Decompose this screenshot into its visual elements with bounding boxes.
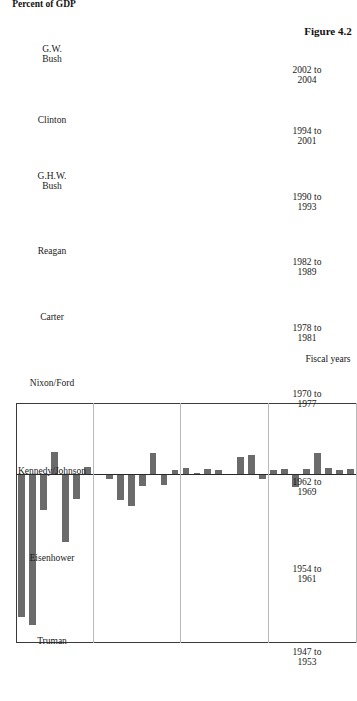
president-label: Clinton — [38, 116, 67, 126]
president-label: Kennedy/Johnson — [18, 467, 86, 477]
bar — [18, 475, 25, 617]
fiscal-year-range-label: 1947 to1953 — [293, 647, 322, 668]
fiscal-year-range-line: 1947 to — [293, 647, 322, 657]
fiscal-year-range-line: 1978 to — [293, 323, 322, 333]
fiscal-year-range-line: 2002 to — [293, 65, 322, 75]
fiscal-year-range-label: 1990 to1993 — [293, 192, 322, 213]
president-label-line: Kennedy/Johnson — [18, 467, 86, 477]
fiscal-year-range-line: 2001 — [293, 136, 322, 146]
fiscal-year-range-line: 1970 to — [293, 389, 322, 399]
value-axis-title: Percent of GDP — [12, 0, 76, 9]
president-label-line: Bush — [38, 182, 67, 192]
bar — [150, 453, 157, 475]
group-separator — [180, 403, 181, 643]
figure-caption: Figure 4.2 — [304, 25, 351, 37]
bar — [117, 475, 124, 500]
fiscal-year-range-label: 1982 to1989 — [293, 257, 322, 278]
bar — [62, 475, 69, 542]
bar — [29, 475, 36, 625]
fiscal-year-range-label: 1962 to1969 — [293, 477, 322, 498]
president-label: Truman — [37, 637, 67, 647]
president-label: Carter — [40, 313, 64, 323]
fiscal-year-range-label: 1994 to2001 — [293, 126, 322, 147]
president-label: G.W.Bush — [42, 46, 62, 66]
figure-page: 14121086420-2-4-6 TrumanEisenhowerKenned… — [0, 0, 357, 701]
bar — [139, 475, 146, 486]
president-label-line: Carter — [40, 313, 64, 323]
bar — [259, 475, 266, 479]
fiscal-year-range-line: 1954 to — [293, 564, 322, 574]
fiscal-year-range-label: 1970 to1977 — [293, 389, 322, 410]
fiscal-year-range-line: 1969 — [293, 487, 322, 497]
president-label: Nixon/Ford — [30, 379, 74, 389]
fiscal-year-range-line: 1981 — [293, 333, 322, 343]
group-separator — [268, 403, 269, 643]
president-label: G.H.W.Bush — [38, 172, 67, 192]
fiscal-year-range-label: 1954 to1961 — [293, 564, 322, 585]
bar — [73, 475, 80, 499]
fiscal-year-range-line: 1977 — [293, 399, 322, 409]
fiscal-year-range-line: 2004 — [293, 76, 322, 86]
bar — [128, 475, 135, 506]
president-label: Eisenhower — [30, 554, 75, 564]
president-label: Reagan — [38, 247, 67, 257]
president-label-line: Eisenhower — [30, 554, 75, 564]
fiscal-year-range-line: 1982 to — [293, 257, 322, 267]
president-label-line: Nixon/Ford — [30, 379, 74, 389]
rotated-figure-wrapper: 14121086420-2-4-6 TrumanEisenhowerKenned… — [0, 0, 357, 701]
fiscal-year-range-line: 1990 to — [293, 192, 322, 202]
president-label-line: Clinton — [38, 116, 67, 126]
category-axis-title: Fiscal years — [305, 354, 350, 364]
bar — [106, 475, 113, 479]
group-separator — [93, 403, 94, 643]
fiscal-year-range-line: 1961 — [293, 575, 322, 585]
fiscal-year-range-line: 1994 to — [293, 126, 322, 136]
bar — [161, 475, 168, 485]
bar-chart-figure: 14121086420-2-4-6 TrumanEisenhowerKenned… — [0, 0, 357, 701]
fiscal-year-range-label: 2002 to2004 — [293, 65, 322, 86]
bar — [314, 453, 321, 475]
fiscal-year-range-line: 1989 — [293, 268, 322, 278]
president-label-line: Bush — [42, 55, 62, 65]
bar — [40, 475, 47, 510]
bar — [248, 455, 255, 475]
bar — [237, 457, 244, 475]
fiscal-year-range-line: 1953 — [293, 657, 322, 667]
president-label-line: Reagan — [38, 247, 67, 257]
fiscal-year-range-line: 1993 — [293, 202, 322, 212]
president-label-line: Truman — [37, 637, 67, 647]
fiscal-year-range-label: 1978 to1981 — [293, 323, 322, 344]
fiscal-year-range-line: 1962 to — [293, 477, 322, 487]
